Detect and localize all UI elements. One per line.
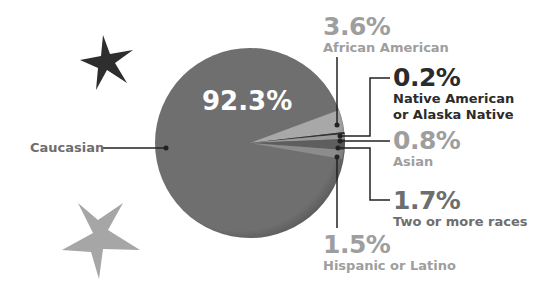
label-caucasian-name: Caucasian — [30, 141, 104, 154]
label-two-or-more-name: Two or more races — [393, 215, 527, 228]
label-african-american-pct: 3.6% — [323, 14, 390, 39]
label-native-american-name-2: or Alaska Native — [393, 108, 513, 121]
label-hispanic-pct: 1.5% — [323, 232, 390, 257]
label-hispanic-name: Hispanic or Latino — [323, 259, 456, 272]
star-dark-icon — [80, 35, 133, 90]
label-two-or-more-pct: 1.7% — [393, 188, 460, 213]
star-light-icon — [62, 203, 140, 279]
label-asian-name: Asian — [393, 155, 433, 168]
label-native-american-pct: 0.2% — [393, 65, 460, 90]
label-asian-pct: 0.8% — [393, 128, 460, 153]
pie — [155, 48, 345, 238]
label-caucasian-pct: 92.3% — [202, 88, 292, 114]
label-african-american-name: African American — [323, 41, 449, 54]
label-native-american-name-1: Native American — [393, 92, 514, 105]
